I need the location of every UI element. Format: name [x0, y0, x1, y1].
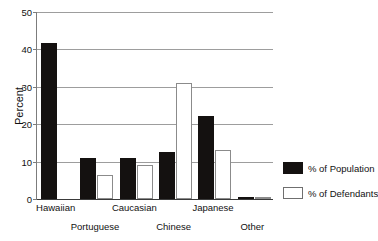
legend-item-population: % of Population	[283, 162, 377, 174]
chart-legend: % of Population % of Defendants	[283, 162, 377, 212]
bar-group-portuguese	[76, 12, 115, 199]
bar-other-population	[238, 197, 254, 199]
bar-portuguese-defendants	[97, 175, 113, 199]
x-label-caucasian: Caucasian	[112, 202, 157, 213]
bar-group-hawaiian	[37, 12, 76, 199]
legend-label-defendants: % of Defendants	[308, 188, 378, 199]
y-tick-40: 40	[6, 44, 32, 55]
y-tick-20: 20	[6, 119, 32, 130]
plot-area	[36, 12, 273, 200]
cropped-title	[60, 0, 220, 5]
x-label-portuguese: Portuguese	[71, 221, 120, 232]
y-axis-ticks: 50 40 30 20 10 0	[5, 0, 32, 241]
y-tick-0: 0	[6, 194, 32, 205]
bar-group-other	[234, 12, 273, 199]
y-tick-50: 50	[6, 7, 32, 18]
bar-japanese-defendants	[215, 150, 231, 199]
legend-swatch-population-icon	[283, 162, 303, 174]
bar-group-japanese	[194, 12, 233, 199]
x-label-other: Other	[240, 221, 264, 232]
y-tick-10: 10	[6, 157, 32, 168]
bar-portuguese-population	[80, 158, 96, 199]
y-tick-30: 30	[6, 82, 32, 93]
bar-hawaiian-population	[41, 43, 57, 199]
x-label-hawaiian: Hawaiian	[36, 202, 75, 213]
x-label-japanese: Japanese	[192, 202, 233, 213]
bar-group-caucasian	[116, 12, 155, 199]
bar-other-defendants	[255, 197, 271, 199]
bar-caucasian-defendants	[137, 165, 153, 199]
bar-chinese-defendants	[176, 83, 192, 199]
tickmark-0	[33, 199, 37, 200]
bar-japanese-population	[198, 116, 214, 199]
bar-caucasian-population	[120, 158, 136, 199]
legend-swatch-defendants-icon	[283, 187, 303, 199]
bar-group-chinese	[155, 12, 194, 199]
legend-label-population: % of Population	[308, 163, 375, 174]
legend-item-defendants: % of Defendants	[283, 187, 377, 199]
x-label-chinese: Chinese	[156, 221, 191, 232]
bar-chinese-population	[159, 152, 175, 199]
